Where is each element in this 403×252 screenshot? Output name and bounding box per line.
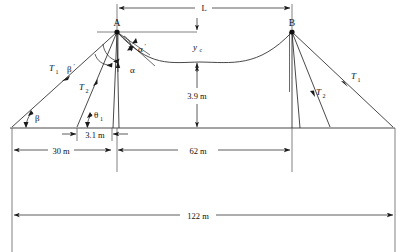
angle-arc-beta-prime-tip <box>107 63 113 68</box>
dim-label-yc-subscript: c <box>200 47 203 53</box>
catenary-cable <box>117 32 292 63</box>
force-label-T1-left-subscript: 1 <box>56 69 59 75</box>
dim-label-yc: y <box>192 42 197 52</box>
tension-member-T2-right <box>292 32 330 127</box>
direction-tick-T1-left <box>62 76 70 82</box>
pole-A-left-leg <box>113 32 117 128</box>
force-label-T2-right-subscript: 2 <box>323 93 326 99</box>
dim-label-left-offset: 30 m <box>52 146 70 156</box>
angle-arc-alpha <box>103 44 117 61</box>
angle-label-alpha-prime-mark: ′ <box>145 42 147 49</box>
angle-arc-theta1-tip <box>85 122 90 128</box>
tension-member-T1-right <box>292 32 393 127</box>
direction-tick-T2-right <box>310 91 315 98</box>
force-label-T2-left: T <box>79 82 85 92</box>
node-dot-B <box>289 29 294 34</box>
force-label-T2-left-subscript: 2 <box>86 88 89 94</box>
dim-label-pole-offset: 3.1 m <box>85 130 105 140</box>
tangent-ray-alpha <box>117 32 155 66</box>
angle-label-beta: β <box>35 113 40 123</box>
angle-label-theta1: θ <box>94 110 98 120</box>
angle-label-alpha: α <box>130 65 135 75</box>
angle-label-theta1-subscript: 1 <box>100 116 103 122</box>
dim-label-L: L <box>201 3 206 13</box>
angle-label-beta-prime-mark: ′ <box>74 62 76 69</box>
angle-arc-beta-tip2 <box>28 110 34 116</box>
force-label-T1-right-subscript: 1 <box>358 77 361 83</box>
pole-B-right-leg <box>292 32 300 128</box>
force-label-T2-right: T <box>316 87 322 97</box>
force-label-T1-right: T <box>351 71 357 81</box>
dim-label-mid-span: 62 m <box>189 146 207 156</box>
dim-label-clearance: 3.9 m <box>187 91 207 101</box>
ray-tick-alpha-prime-2 <box>132 38 138 44</box>
dim-label-total: 122 m <box>187 211 209 221</box>
node-label-A: A <box>114 18 121 28</box>
angle-arc-beta-tip <box>24 122 29 128</box>
angle-label-alpha-prime: α <box>138 44 143 54</box>
figure-container: L y c 3.9 m 3.1 m 30 m 62 m 122 m <box>0 0 403 252</box>
node-dot-A <box>114 29 119 34</box>
angle-label-beta-prime: β <box>67 64 72 74</box>
node-label-B: B <box>289 18 295 28</box>
catenary-diagram: L y c 3.9 m 3.1 m 30 m 62 m 122 m <box>0 0 403 252</box>
force-label-T1-left: T <box>49 63 55 73</box>
